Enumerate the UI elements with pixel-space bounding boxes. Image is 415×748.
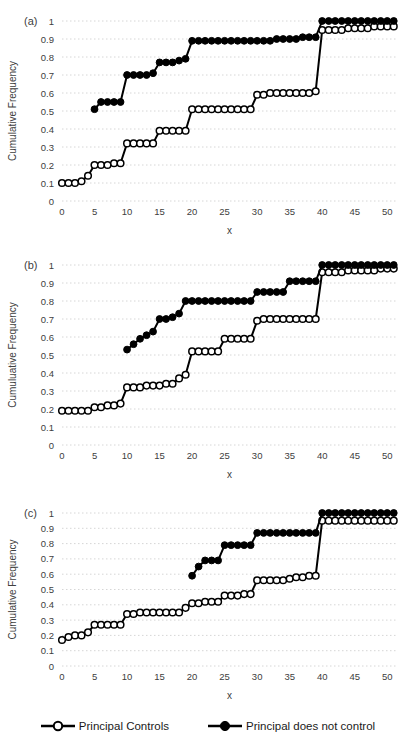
chart-panel-c: 00.10.20.30.40.50.60.70.80.9105101520253… (0, 488, 415, 712)
svg-text:20: 20 (187, 450, 198, 461)
svg-text:30: 30 (252, 671, 263, 682)
svg-text:50: 50 (382, 671, 393, 682)
svg-text:0: 0 (49, 196, 54, 207)
legend: Principal Controls Principal does not co… (0, 712, 415, 748)
x-axis-tick-labels: 05101520253035404550 (59, 450, 392, 461)
series-principal-does-not-control (91, 18, 397, 113)
open-circle-marker (40, 720, 76, 732)
svg-text:45: 45 (349, 450, 360, 461)
svg-text:0: 0 (59, 206, 64, 217)
svg-text:0.2: 0.2 (41, 404, 54, 415)
svg-text:35: 35 (284, 206, 295, 217)
svg-text:0.3: 0.3 (41, 142, 54, 153)
svg-text:40: 40 (317, 671, 328, 682)
svg-text:0: 0 (49, 661, 54, 672)
svg-text:15: 15 (154, 206, 165, 217)
svg-text:0.1: 0.1 (41, 422, 54, 433)
svg-text:0.1: 0.1 (41, 645, 54, 656)
svg-text:5: 5 (92, 206, 97, 217)
chart-c-canvas: 00.10.20.30.40.50.60.70.80.9105101520253… (0, 488, 415, 712)
x-axis-tick-labels: 05101520253035404550 (59, 671, 392, 682)
chart-b-canvas: 00.10.20.30.40.50.60.70.80.9105101520253… (0, 240, 415, 488)
svg-text:0: 0 (49, 440, 54, 451)
svg-text:0.6: 0.6 (41, 569, 54, 580)
svg-text:40: 40 (317, 206, 328, 217)
x-axis-title: x (227, 469, 232, 480)
svg-text:5: 5 (92, 671, 97, 682)
svg-text:1: 1 (49, 508, 54, 519)
svg-text:0.3: 0.3 (41, 386, 54, 397)
cumulative-frequency-figure: 00.10.20.30.40.50.60.70.80.9105101520253… (0, 0, 415, 748)
svg-text:0.8: 0.8 (41, 296, 54, 307)
svg-text:0.7: 0.7 (41, 553, 54, 564)
legend-label-principal-does-not-control: Principal does not control (246, 720, 375, 732)
svg-text:0.3: 0.3 (41, 615, 54, 626)
svg-text:0.5: 0.5 (41, 350, 54, 361)
svg-text:0.6: 0.6 (41, 332, 54, 343)
svg-text:40: 40 (317, 450, 328, 461)
svg-text:0.5: 0.5 (41, 106, 54, 117)
x-axis-title: x (227, 690, 232, 701)
panel-label: (a) (24, 15, 37, 27)
svg-text:0.9: 0.9 (41, 34, 54, 45)
y-axis-tick-labels: 00.10.20.30.40.50.60.70.80.91 (41, 260, 54, 451)
svg-text:0.1: 0.1 (41, 178, 54, 189)
y-axis-tick-labels: 00.10.20.30.40.50.60.70.80.91 (41, 16, 54, 207)
y-axis-tick-labels: 00.10.20.30.40.50.60.70.80.91 (41, 508, 54, 672)
svg-text:20: 20 (187, 671, 198, 682)
y-axis-title: Cumuluative Frequency (7, 302, 18, 408)
svg-text:0.4: 0.4 (41, 124, 54, 135)
svg-text:0.4: 0.4 (41, 368, 54, 379)
svg-text:0.8: 0.8 (41, 52, 54, 63)
x-axis-tick-labels: 05101520253035404550 (59, 206, 392, 217)
x-axis-title: x (227, 225, 232, 236)
series-principal-controls (59, 517, 397, 643)
svg-text:0.7: 0.7 (41, 314, 54, 325)
panel-label: (b) (24, 259, 37, 271)
svg-text:25: 25 (219, 450, 230, 461)
svg-text:0.6: 0.6 (41, 88, 54, 99)
svg-text:20: 20 (187, 206, 198, 217)
svg-text:35: 35 (284, 671, 295, 682)
svg-text:1: 1 (49, 16, 54, 27)
series-principal-controls (59, 265, 397, 414)
svg-text:1: 1 (49, 260, 54, 271)
svg-text:5: 5 (92, 450, 97, 461)
svg-text:30: 30 (252, 206, 263, 217)
svg-text:15: 15 (154, 671, 165, 682)
y-axis-title: Cumulative Frequency (7, 539, 18, 639)
svg-text:35: 35 (284, 450, 295, 461)
legend-label-principal-controls: Principal Controls (79, 720, 169, 732)
svg-text:30: 30 (252, 450, 263, 461)
svg-text:10: 10 (122, 206, 133, 217)
svg-text:0: 0 (59, 450, 64, 461)
svg-text:0: 0 (59, 671, 64, 682)
chart-panel-a: 00.10.20.30.40.50.60.70.80.9105101520253… (0, 0, 415, 240)
svg-text:25: 25 (219, 206, 230, 217)
svg-text:10: 10 (122, 450, 133, 461)
svg-text:0.2: 0.2 (41, 160, 54, 171)
svg-text:25: 25 (219, 671, 230, 682)
legend-item-principal-controls: Principal Controls (40, 720, 169, 732)
chart-panel-b: 00.10.20.30.40.50.60.70.80.9105101520253… (0, 240, 415, 488)
svg-text:0.8: 0.8 (41, 538, 54, 549)
svg-text:45: 45 (349, 206, 360, 217)
svg-text:0.7: 0.7 (41, 70, 54, 81)
filled-circle-marker (207, 720, 243, 732)
gridlines (62, 513, 397, 666)
svg-text:50: 50 (382, 206, 393, 217)
svg-text:50: 50 (382, 450, 393, 461)
series-principal-does-not-control (124, 262, 397, 353)
gridlines (62, 265, 397, 445)
svg-text:0.5: 0.5 (41, 584, 54, 595)
svg-text:15: 15 (154, 450, 165, 461)
y-axis-title: Cumulative Frequency (7, 61, 18, 161)
svg-text:45: 45 (349, 671, 360, 682)
chart-a-canvas: 00.10.20.30.40.50.60.70.80.9105101520253… (0, 0, 415, 240)
panel-label: (c) (24, 507, 37, 519)
svg-text:0.9: 0.9 (41, 278, 54, 289)
svg-text:0.9: 0.9 (41, 523, 54, 534)
svg-text:0.4: 0.4 (41, 599, 54, 610)
svg-text:10: 10 (122, 671, 133, 682)
legend-item-principal-does-not-control: Principal does not control (207, 720, 375, 732)
